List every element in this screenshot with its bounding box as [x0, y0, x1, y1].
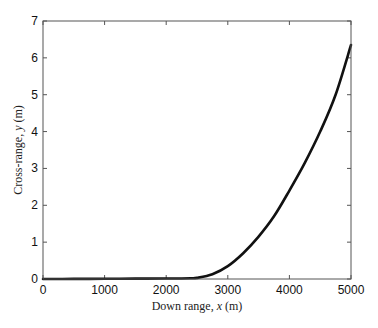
y-tick-label: 5 — [31, 88, 38, 102]
x-tick-label: 2000 — [153, 283, 180, 297]
y-tick-label: 3 — [31, 161, 38, 175]
y-tick-label: 0 — [31, 272, 38, 286]
axis-ticks — [43, 21, 351, 279]
x-tick-label: 3000 — [214, 283, 241, 297]
y-tick-label: 6 — [31, 51, 38, 65]
line-chart: 01000200030004000500001234567 Down range… — [0, 0, 378, 328]
axes-frame — [43, 21, 351, 279]
y-tick-label: 2 — [31, 198, 38, 212]
y-axis-label: Cross-range, y (m) — [11, 105, 25, 195]
tick-labels: 01000200030004000500001234567 — [31, 14, 364, 297]
x-tick-label: 5000 — [338, 283, 365, 297]
x-tick-label: 4000 — [276, 283, 303, 297]
x-tick-label: 0 — [40, 283, 47, 297]
y-tick-label: 1 — [31, 235, 38, 249]
x-tick-label: 1000 — [91, 283, 118, 297]
y-tick-label: 7 — [31, 14, 38, 28]
x-axis-label: Down range, x (m) — [152, 299, 243, 313]
y-tick-label: 4 — [31, 125, 38, 139]
trajectory-line — [43, 45, 351, 279]
